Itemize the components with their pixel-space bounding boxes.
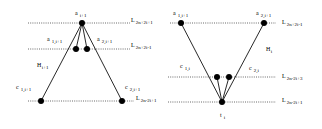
label-right-level-bottom: L2n-2i+1: [282, 97, 303, 105]
edge-left-inner-1: [76, 23, 82, 49]
left-diagram: ai+1 a1,i+1 a2,i+1 c1,i+1 c2,i+1 Hi+1 L2…: [16, 10, 157, 104]
node-left-c2: [119, 98, 125, 104]
label-left-a1: a1,i+1: [47, 36, 63, 45]
node-right-c1: [214, 74, 220, 80]
label-left-a2: a2,i+1: [97, 36, 113, 45]
label-left-region-H: Hi+1: [37, 62, 49, 70]
diagram-canvas: ai+1 a1,i+1 a2,i+1 c1,i+1 c2,i+1 Hi+1 L2…: [0, 0, 322, 129]
label-right-level-top: L2n+2i-1: [282, 19, 303, 27]
node-right-t: [219, 99, 225, 105]
edge-right-outer-1: [181, 23, 222, 102]
label-right-c1: c1,i: [180, 63, 190, 72]
node-left-a2: [84, 46, 90, 52]
node-right-c2: [226, 74, 232, 80]
node-left-a-top: [79, 20, 85, 26]
node-left-c1: [38, 98, 44, 104]
label-left-level-bottom: L2n-2i+1: [136, 95, 157, 103]
node-right-a2: [261, 20, 267, 26]
edge-right-inner-1: [217, 77, 222, 102]
edge-left-outer-1: [41, 23, 82, 101]
node-right-a1: [178, 20, 184, 26]
label-left-level-top: L2n+2i+1: [131, 17, 153, 25]
label-left-a-top: ai+1: [75, 10, 87, 18]
edge-right-outer-2: [222, 23, 264, 102]
label-right-region-H: Hi: [266, 46, 273, 54]
label-right-level-mid: L2n-2i+3: [282, 73, 303, 81]
label-left-c2: c2,i+1: [125, 84, 141, 93]
label-right-a2: a2,i+1: [256, 10, 272, 19]
node-left-a1: [73, 46, 79, 52]
label-left-level-mid: L2n+2i-1: [131, 42, 152, 50]
edge-left-outer-2: [82, 23, 122, 101]
label-right-a1: a1,i+1: [173, 10, 189, 19]
right-diagram: a1,i+1 a2,i+1 c1,i c2,i ti Hi L2n+2i-1 L…: [168, 10, 303, 120]
label-right-t: ti: [220, 112, 226, 120]
edge-right-inner-2: [222, 77, 229, 102]
label-right-c2: c2,i: [249, 65, 259, 74]
label-left-c1: c1,i+1: [16, 84, 32, 93]
